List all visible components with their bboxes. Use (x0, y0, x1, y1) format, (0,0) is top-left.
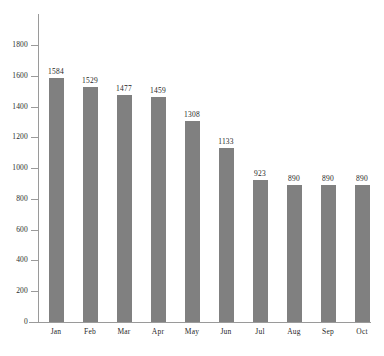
bar (355, 185, 370, 322)
bar-chart: 020040060080010001200140016001800 158415… (0, 0, 384, 356)
bar-value-label: 1308 (172, 110, 212, 119)
bar (219, 148, 234, 322)
bar (49, 78, 64, 322)
bar-value-label: 890 (342, 174, 382, 183)
bar (287, 185, 302, 322)
bar (151, 97, 166, 322)
bar-value-label: 1133 (206, 137, 246, 146)
bar (185, 121, 200, 322)
bar (253, 180, 268, 322)
bar (83, 87, 98, 322)
bars-layer: 158415291477145913081133923890890890 (0, 0, 384, 356)
x-axis-tick-label: Oct (342, 327, 382, 336)
bar-value-label: 1459 (138, 86, 178, 95)
bar (321, 185, 336, 322)
bar (117, 95, 132, 322)
